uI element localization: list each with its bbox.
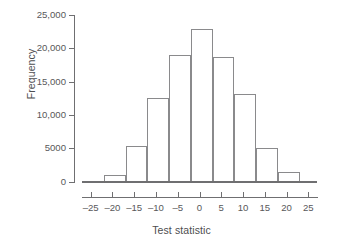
x-tick-mark xyxy=(243,192,244,197)
histogram-bar xyxy=(234,94,256,181)
y-tick-label: 15,000 xyxy=(14,77,66,87)
x-tick-label: 25 xyxy=(288,203,328,213)
x-tick-mark xyxy=(308,192,309,197)
y-tick-label: 25,000 xyxy=(14,10,66,20)
y-axis-title: Frequency xyxy=(25,14,37,134)
y-axis-tick-labels: 0500010,00015,00020,00025,000 xyxy=(14,0,66,243)
histogram-bar xyxy=(191,29,213,182)
y-tick-label: 20,000 xyxy=(14,43,66,53)
x-tick-mark xyxy=(265,192,266,197)
histogram-bar xyxy=(213,57,235,182)
histogram-bar xyxy=(278,172,300,182)
y-tick-label: 0 xyxy=(14,177,66,187)
x-tick-mark xyxy=(91,192,92,197)
y-tick-label: 5000 xyxy=(14,143,66,153)
y-tick-label: 10,000 xyxy=(14,110,66,120)
x-tick-mark xyxy=(221,192,222,197)
x-tick-mark xyxy=(134,192,135,197)
x-tick-mark xyxy=(156,192,157,197)
x-tick-mark xyxy=(200,192,201,197)
histogram-bar xyxy=(126,146,148,181)
x-tick-mark xyxy=(287,192,288,197)
x-tick-mark xyxy=(178,192,179,197)
histogram-bar xyxy=(256,148,278,182)
x-axis-line xyxy=(82,197,318,198)
x-axis-title: Test statistic xyxy=(0,224,363,236)
histogram-bar xyxy=(147,98,169,181)
x-tick-mark xyxy=(112,192,113,197)
y-axis-line xyxy=(74,15,75,183)
histogram-bar xyxy=(169,55,191,182)
histogram-figure: 0500010,00015,00020,00025,000 Frequency … xyxy=(0,0,363,243)
baseline xyxy=(82,181,317,183)
